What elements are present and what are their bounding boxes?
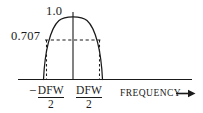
fraction-denominator: 2 — [48, 98, 54, 110]
minus-sign: − — [29, 84, 36, 96]
fraction-stack: DFW 2 — [76, 84, 102, 110]
lower-cutoff-frequency-label: − DFW 2 — [29, 84, 64, 110]
fraction-numerator: DFW — [76, 84, 102, 96]
half-power-level-label: 0.707 — [11, 30, 40, 43]
peak-amplitude-label: 1.0 — [46, 5, 62, 18]
fraction-numerator: DFW — [38, 84, 64, 96]
fraction-denominator: 2 — [86, 98, 92, 110]
frequency-axis-label: FREQUENCY — [120, 89, 181, 99]
fraction-stack: DFW 2 — [38, 84, 64, 110]
frequency-response-figure: 1.0 0.707 − DFW 2 DFW 2 FREQUENCY — [0, 0, 203, 113]
upper-cutoff-frequency-label: DFW 2 — [76, 84, 102, 110]
